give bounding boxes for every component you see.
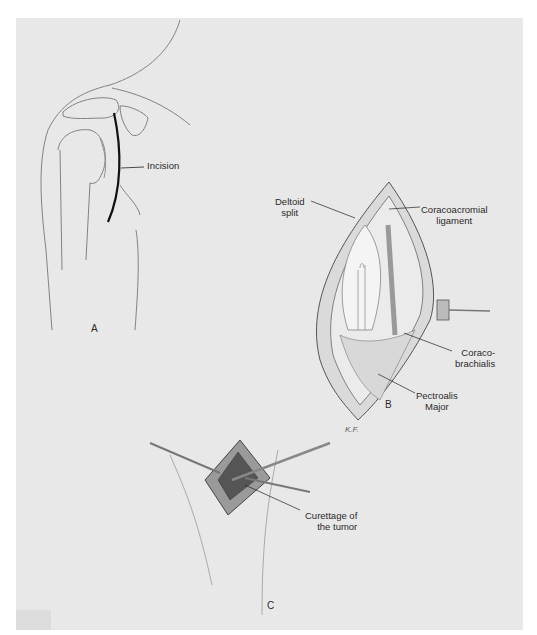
- label-pectoralis-line2: Major: [416, 401, 458, 412]
- label-coracoacromial-line2: ligament: [421, 215, 488, 226]
- label-pectoralis-line1: Pectroalis: [416, 390, 458, 401]
- incision-leader: [121, 167, 144, 168]
- panel-a-drawing: [41, 20, 190, 330]
- label-deltoid-split: Deltoid split: [275, 196, 305, 218]
- label-curettage-line2: the tumor: [305, 521, 357, 532]
- panel-label-b: B: [385, 399, 392, 410]
- label-coracoacromial-line1: Coracoacromial: [421, 204, 488, 215]
- label-coracobrachialis-line1: Coraco-: [455, 347, 495, 358]
- label-curettage-line1: Curettage of: [305, 510, 357, 521]
- label-incision: Incision: [147, 160, 179, 171]
- label-deltoid-split-line1: Deltoid: [275, 196, 305, 207]
- surgical-illustration: [0, 0, 537, 635]
- artist-signature: K.F.: [345, 425, 359, 434]
- label-coracobrachialis-line2: brachialis: [455, 358, 495, 369]
- label-pectoralis-major: Pectroalis Major: [416, 390, 458, 412]
- corner-stamp: [16, 610, 51, 630]
- panel-label-c: C: [267, 600, 274, 611]
- incision-line: [108, 113, 119, 222]
- label-deltoid-split-line2: split: [275, 207, 305, 218]
- label-coracoacromial-ligament: Coracoacromial ligament: [421, 204, 488, 226]
- label-curettage: Curettage of the tumor: [305, 510, 357, 532]
- panel-label-a: A: [91, 323, 98, 334]
- panel-c-drawing: [150, 440, 330, 615]
- label-coracobrachialis: Coraco- brachialis: [455, 347, 495, 369]
